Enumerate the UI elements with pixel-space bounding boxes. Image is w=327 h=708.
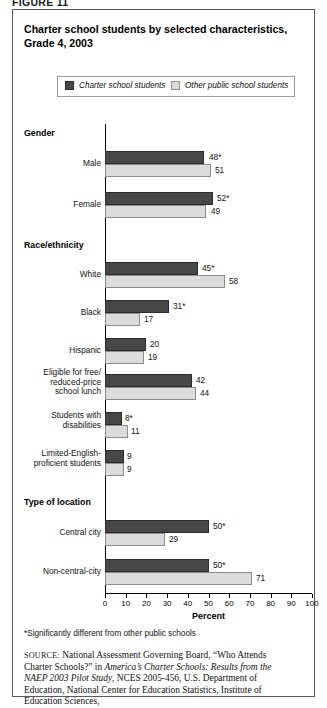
bar-lunch-charter (105, 374, 192, 387)
category-label-lunch-line1: Eligible for free/ (43, 367, 101, 377)
bar-black-charter (105, 300, 169, 313)
category-label-lep: Limited-English- proficient students (5, 449, 101, 468)
x-tick-label-100: 100 (302, 599, 322, 608)
x-tick-label-10: 10 (116, 599, 136, 608)
bar-hispanic-other (105, 351, 144, 364)
source-prefix: SOURCE: (24, 651, 60, 660)
x-tick-30 (167, 594, 168, 598)
category-label-white: White (5, 270, 101, 280)
bar-female-other (105, 205, 206, 218)
section-header-race: Race/ethnicity (24, 240, 84, 250)
value-lunch-charter: 42 (196, 375, 205, 385)
value-hispanic-other: 19 (148, 352, 157, 362)
value-male-charter: 48* (209, 152, 221, 162)
x-tick-90 (291, 594, 292, 598)
x-tick-label-20: 20 (136, 599, 156, 608)
category-label-central-city: Central city (5, 528, 101, 538)
x-tick-100 (312, 594, 313, 598)
category-label-lep-line1: Limited-English- (42, 448, 101, 458)
x-tick-40 (188, 594, 189, 598)
bar-disabilities-charter (105, 412, 122, 425)
x-axis-label: Percent (105, 611, 312, 621)
bar-lunch-other (105, 387, 196, 400)
value-disabilities-other: 11 (131, 426, 140, 436)
bar-central-city-charter (105, 520, 209, 533)
value-lunch-other: 44 (200, 388, 209, 398)
category-label-male: Male (5, 159, 101, 169)
value-white-other: 58 (229, 276, 238, 286)
bar-hispanic-charter (105, 338, 146, 351)
x-tick-20 (146, 594, 147, 598)
value-lep-other: 9 (127, 464, 132, 474)
bar-disabilities-other (105, 425, 128, 438)
bar-black-other (105, 313, 140, 326)
value-white-charter: 45* (202, 263, 214, 273)
category-label-lunch-line2: reduced-price (50, 377, 101, 387)
x-tick-label-80: 80 (261, 599, 281, 608)
bar-central-city-other (105, 533, 165, 546)
x-tick-label-50: 50 (199, 599, 219, 608)
bar-non-central-city-other (105, 572, 252, 585)
value-hispanic-charter: 20 (150, 339, 159, 349)
x-tick-10 (126, 594, 127, 598)
value-central-city-other: 29 (169, 534, 178, 544)
bar-non-central-city-charter (105, 559, 209, 572)
x-tick-label-60: 60 (219, 599, 239, 608)
value-non-central-city-charter: 50* (213, 560, 225, 570)
category-label-lunch-line3: school lunch (55, 386, 101, 396)
x-tick-50 (209, 594, 210, 598)
bar-female-charter (105, 192, 213, 205)
category-label-disabilities-line1: Students with (51, 410, 101, 420)
x-tick-label-40: 40 (178, 599, 198, 608)
value-disabilities-charter: 8* (125, 413, 133, 423)
x-tick-0 (105, 594, 106, 598)
x-tick-60 (229, 594, 230, 598)
value-male-other: 51 (215, 165, 224, 175)
x-tick-70 (250, 594, 251, 598)
x-tick-label-30: 30 (157, 599, 177, 608)
bar-male-charter (105, 151, 204, 164)
bar-male-other (105, 164, 211, 177)
category-label-disabilities-line2: disabilities (63, 420, 101, 430)
x-tick-label-0: 0 (95, 599, 115, 608)
category-label-lep-line2: proficient students (34, 458, 101, 468)
category-label-non-central-city: Non-central-city (5, 567, 101, 577)
footnote: *Significantly different from other publ… (24, 629, 294, 638)
bar-white-charter (105, 262, 198, 275)
bar-white-other (105, 275, 225, 288)
category-label-disabilities: Students with disabilities (5, 411, 101, 430)
value-black-other: 17 (144, 314, 153, 324)
value-lep-charter: 9 (127, 451, 132, 461)
category-label-hispanic: Hispanic (5, 346, 101, 356)
bar-lep-other (105, 463, 124, 476)
section-header-gender: Gender (24, 128, 55, 138)
value-female-other: 49 (211, 206, 220, 216)
value-central-city-charter: 50* (213, 521, 225, 531)
x-tick-label-70: 70 (240, 599, 260, 608)
value-non-central-city-other: 71 (256, 573, 265, 583)
source-note: SOURCE: National Assessment Governing Bo… (24, 650, 296, 708)
x-tick-80 (271, 594, 272, 598)
value-black-charter: 31* (173, 301, 185, 311)
x-tick-label-90: 90 (281, 599, 301, 608)
value-female-charter: 52* (217, 193, 229, 203)
bar-lep-charter (105, 450, 124, 463)
section-header-location: Type of location (24, 497, 91, 507)
category-label-black: Black (5, 308, 101, 318)
category-label-female: Female (5, 200, 101, 210)
category-label-lunch: Eligible for free/ reduced-price school … (5, 368, 101, 397)
